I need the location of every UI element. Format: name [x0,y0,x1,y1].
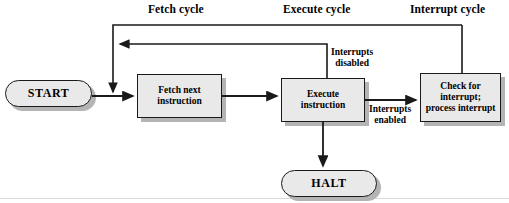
node-check-label-line3: process interrupt [426,103,496,114]
node-halt-label: HALT [311,176,346,191]
cycle-label-execute: Execute cycle [283,3,350,15]
node-check-label-line1: Check for [426,81,496,92]
node-execute-instruction: Execute instruction [281,78,365,122]
node-halt: HALT [281,170,377,197]
edge-label-line2: enabled [369,115,411,126]
node-start-label: START [28,86,70,101]
node-check-label-line2: interrupt; [426,92,496,103]
node-fetch-label-line2: instruction [157,96,201,107]
instruction-cycle-diagram: Fetch cycle Execute cycle Interrupt cycl… [0,0,509,203]
edge-label-line2: disabled [331,58,373,69]
node-start: START [5,80,92,107]
edge-label-interrupts-enabled: Interrupts enabled [369,104,411,125]
edge-label-interrupts-disabled: Interrupts disabled [331,47,373,68]
node-fetch-next-instruction: Fetch next instruction [137,74,222,118]
node-execute-label-line2: instruction [301,100,345,111]
node-check-label: Check for interrupt; process interrupt [426,81,496,114]
node-fetch-label-line1: Fetch next [157,85,201,96]
node-execute-label-line1: Execute [301,89,345,100]
node-fetch-label: Fetch next instruction [157,85,201,107]
cycle-label-interrupt: Interrupt cycle [410,3,485,15]
edge-label-line1: Interrupts [369,104,411,115]
edge-execute-cycle-rail [120,44,327,78]
node-check-for-interrupt: Check for interrupt; process interrupt [420,73,501,122]
node-execute-label: Execute instruction [301,89,345,111]
edge-label-line1: Interrupts [331,47,373,58]
cycle-label-fetch: Fetch cycle [148,3,204,15]
